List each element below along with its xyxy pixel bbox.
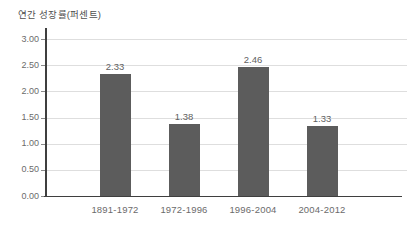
bar-1891-1972 — [100, 74, 131, 196]
bar-value-label: 2.33 — [85, 61, 145, 72]
y-tick-label: 2.00 — [11, 86, 39, 96]
y-tick-label: 0.50 — [11, 164, 39, 174]
gridline — [46, 39, 407, 40]
x-tick-label: 1972-1996 — [144, 204, 224, 215]
bar-value-label: 1.38 — [154, 111, 214, 122]
y-axis-line — [45, 28, 47, 197]
bar-value-label: 1.33 — [292, 113, 352, 124]
y-tick-label: 2.50 — [11, 60, 39, 70]
bar-chart: 연간 성장률(퍼센트) 0.000.501.001.502.002.503.00… — [0, 0, 419, 232]
x-tick-label: 2004-2012 — [282, 204, 362, 215]
y-tick-label: 0.00 — [11, 191, 39, 201]
bar-1972-1996 — [169, 124, 200, 196]
x-tick-label: 1996-2004 — [213, 204, 293, 215]
y-tick-label: 3.00 — [11, 34, 39, 44]
y-tick-label: 1.00 — [11, 138, 39, 148]
bar-2004-2012 — [307, 126, 338, 196]
x-tick-label: 1891-1972 — [75, 204, 155, 215]
y-tick-label: 1.50 — [11, 112, 39, 122]
chart-title: 연간 성장률(퍼센트) — [18, 7, 101, 21]
bar-1996-2004 — [238, 67, 269, 196]
bar-value-label: 2.46 — [223, 54, 283, 65]
x-axis-line — [44, 196, 402, 198]
